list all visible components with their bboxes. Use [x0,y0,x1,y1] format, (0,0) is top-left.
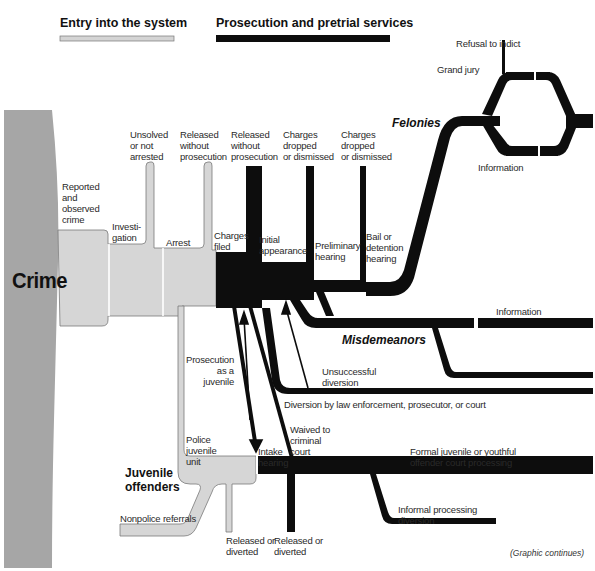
graphic-continues-note: (Graphic continues) [510,548,584,558]
unsuccessful-diversion-label: Unsuccessful diversion [322,366,376,388]
exit-unsolved: Unsolved or not arrested [130,129,168,162]
juvenile-released-2-label: Released or diverted [274,535,323,557]
crime-band [4,110,58,568]
police-juvenile-unit-label: Police juvenile unit [186,434,217,467]
exit-released-2: Released without prosecution [231,129,278,162]
misdemeanors-label: Misdemeanors [342,333,426,347]
stage-initial-appearance: Initial appearance [259,234,307,256]
legend-prosecution-label: Prosecution and pretrial services [216,16,413,30]
stage-bail-hearing: Bail or detention hearing [366,231,403,264]
stage-reported: Reported and observed crime [62,181,99,225]
prosecution-as-juvenile-label: Prosecution as a juvenile [186,354,234,387]
felony-information-label: Information [478,162,523,173]
formal-processing-label: Formal juvenile or youthful offender cou… [410,446,516,468]
juvenile-released-1-label: Released or diverted [226,535,275,557]
exit-released-1: Released without prosecution [180,129,227,162]
legend-bar-prosecution [216,35,390,42]
waived-to-criminal-court-label: Waived to criminal court [290,424,330,457]
exit-dropped-2: Charges dropped or dismissed [341,129,392,162]
misdemeanor-separator [474,318,478,328]
informal-processing-label: Informal processing diversion [398,504,477,526]
juvenile-offenders-label: Juvenile offenders [125,466,180,494]
grand-jury-label: Grand jury [437,64,479,75]
stage-charges-filed: Charges filed [214,230,249,252]
grandjury-separator [534,72,536,80]
intake-hearing-label: Intake hearing [258,446,288,468]
stage-preliminary-hearing: Preliminary hearing [315,240,360,262]
refusal-to-indict-label: Refusal to indict [456,38,520,49]
information-separator [538,146,540,156]
felonies-label: Felonies [392,116,441,130]
legend-bar-entry [60,36,174,41]
stage-arrest: Arrest [166,237,190,248]
criminal-justice-flow-diagram [0,0,595,571]
stage-investigation: Investi- gation [112,221,141,243]
misdemeanor-information-label: Information [496,306,541,317]
exit-dropped-1: Charges dropped or dismissed [283,129,334,162]
nonpolice-referrals-label: Nonpolice referrals [120,513,196,524]
diversion-label: Diversion by law enforcement, prosecutor… [284,399,486,410]
crime-label: Crime [12,268,67,294]
legend-entry-label: Entry into the system [60,16,187,30]
